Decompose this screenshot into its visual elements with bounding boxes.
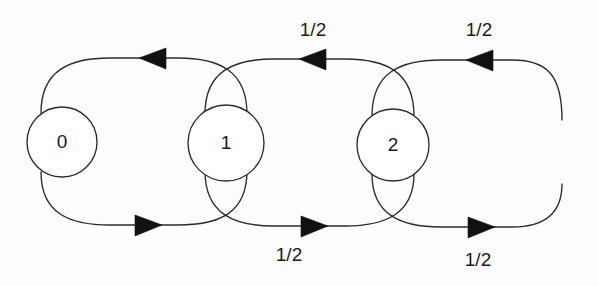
edge-label-bottom-right: 1/2 bbox=[465, 249, 491, 270]
edge-label-bottom-left: 1/2 bbox=[276, 244, 302, 265]
node-state-1-label: 1 bbox=[221, 132, 232, 153]
arrowhead-2-to-1 bbox=[299, 49, 326, 70]
edge-label-top-left: 1/2 bbox=[300, 19, 326, 40]
edge-label-top-right: 1/2 bbox=[466, 19, 492, 40]
arrowhead-2-self-bottom bbox=[468, 217, 495, 238]
arrowhead-1-to-0 bbox=[139, 48, 166, 69]
arrowhead-1-to-2 bbox=[301, 216, 328, 237]
arrowhead-2-self-top bbox=[466, 50, 493, 71]
state-diagram-svg: 0 1 2 1/2 1/2 1/2 1/2 bbox=[0, 0, 598, 286]
node-state-0-label: 0 bbox=[57, 131, 68, 152]
edge-1-to-0-top-arc bbox=[41, 58, 247, 114]
arrowhead-0-to-1 bbox=[135, 215, 162, 236]
state-diagram-canvas: 0 1 2 1/2 1/2 1/2 1/2 bbox=[0, 0, 598, 286]
node-state-2-label: 2 bbox=[388, 134, 399, 155]
edge-2-self-loop-bottom bbox=[372, 174, 562, 227]
